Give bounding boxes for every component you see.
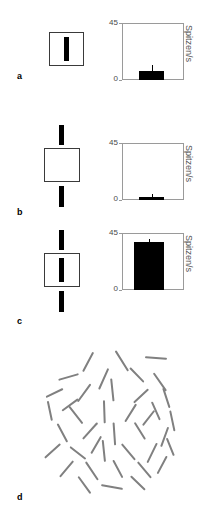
texture-line-segment (115, 350, 129, 371)
texture-line-segment (98, 368, 109, 390)
texture-line-segment (157, 456, 168, 474)
texture-line-segment (133, 388, 149, 403)
texture-line-segment (153, 372, 167, 391)
texture-line-segment (103, 400, 105, 423)
texture-line-segment (130, 475, 146, 490)
texture-line-segment (166, 438, 175, 456)
texture-line-segment (47, 401, 53, 421)
texture-line-segment (56, 423, 67, 442)
texture-line-segment (82, 352, 94, 372)
texture-line-segment (82, 422, 98, 439)
texture-line-segment (137, 461, 152, 478)
texture-line-segment (112, 422, 115, 445)
texture-line-segment (70, 446, 87, 460)
texture-line-segment (102, 440, 106, 462)
texture-line-segment (44, 443, 61, 458)
texture-line-segment (145, 356, 167, 359)
texture-line-segment (101, 484, 123, 489)
texture-field (0, 0, 212, 520)
texture-line-segment (110, 378, 114, 401)
texture-line-segment (45, 388, 63, 398)
figure-container: a450Spitzen/sb450Spitzen/sc450Spitzen/sd (0, 0, 212, 520)
texture-line-segment (59, 460, 74, 477)
texture-line-segment (121, 443, 136, 460)
texture-line-segment (141, 410, 154, 426)
texture-line-segment (69, 406, 84, 424)
texture-line-segment (90, 436, 101, 454)
texture-line-segment (113, 460, 124, 478)
texture-line-segment (77, 383, 91, 402)
texture-line-segment (146, 443, 157, 464)
texture-line-segment (124, 403, 137, 422)
texture-line-segment (77, 476, 91, 494)
texture-line-segment (129, 367, 144, 383)
texture-line-segment (58, 373, 79, 380)
texture-line-segment (85, 461, 99, 480)
texture-line-segment (169, 410, 175, 431)
